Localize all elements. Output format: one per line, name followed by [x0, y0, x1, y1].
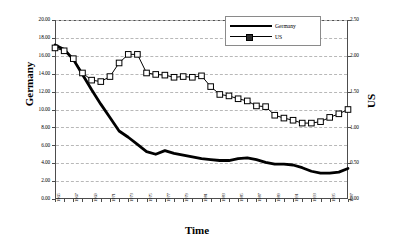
- x-axis-tick-mark: [229, 199, 230, 202]
- y-axis-tick-mark-left: [52, 181, 55, 182]
- x-axis-tick-mark: [321, 199, 322, 202]
- chart-container: Germany US Time Germany US 0.002.004.006…: [0, 0, 394, 246]
- y-axis-tick-label-right: 0.50: [350, 160, 392, 165]
- y-axis-tick-mark-left: [52, 145, 55, 146]
- x-axis-tick-mark: [192, 199, 193, 202]
- y-axis-tick-label-left: 4.00: [8, 160, 50, 165]
- y-axis-tick-label-left: 18.00: [8, 35, 50, 40]
- x-axis-tick-mark: [64, 199, 65, 202]
- x-axis-tick-mark: [284, 199, 285, 202]
- series-us: [52, 45, 351, 126]
- y-axis-tick-label-left: 6.00: [8, 143, 50, 148]
- x-axis-tick-mark: [119, 199, 120, 202]
- y-axis-tick-mark-right: [348, 56, 351, 57]
- data-point-marker: [80, 70, 86, 76]
- data-point-marker: [135, 52, 141, 58]
- x-axis-tick-label: 1989: [277, 193, 282, 202]
- x-axis-tick-label: 1967: [75, 193, 80, 202]
- x-axis-tick-mark: [101, 199, 102, 202]
- data-point-marker: [171, 74, 177, 80]
- y-axis-tick-mark-right: [348, 20, 351, 21]
- x-axis-tick-label: 1991: [295, 193, 300, 202]
- y-axis-tick-label-left: 8.00: [8, 125, 50, 130]
- x-axis-tick-mark: [266, 199, 267, 202]
- x-axis-tick-mark: [137, 199, 138, 202]
- data-point-marker: [144, 70, 150, 76]
- y-axis-tick-label-left: 12.00: [8, 89, 50, 94]
- x-axis-tick-label: 1995: [332, 193, 337, 202]
- data-point-marker: [107, 74, 113, 80]
- data-point-marker: [98, 79, 104, 85]
- x-axis-tick-label: 1975: [149, 193, 154, 202]
- data-point-marker: [235, 96, 241, 102]
- y-axis-tick-mark-right: [348, 163, 351, 164]
- data-point-marker: [272, 112, 278, 118]
- y-axis-tick-mark-left: [52, 92, 55, 93]
- y-axis-tick-label-right: 2.50: [350, 17, 392, 22]
- y-axis-tick-mark-left: [52, 127, 55, 128]
- y-axis-tick-label-left: 16.00: [8, 53, 50, 58]
- series-layer: [0, 0, 394, 246]
- y-axis-tick-mark-left: [52, 110, 55, 111]
- x-axis-tick-label: 1965: [57, 193, 62, 202]
- x-axis-tick-label: 1981: [204, 193, 209, 202]
- x-axis-tick-mark: [82, 199, 83, 202]
- y-axis-tick-mark-left: [52, 74, 55, 75]
- y-axis-tick-label-left: 10.00: [8, 107, 50, 112]
- data-point-marker: [61, 48, 67, 54]
- x-axis-tick-label: 1993: [313, 193, 318, 202]
- data-point-marker: [125, 52, 131, 58]
- data-point-marker: [217, 92, 223, 98]
- data-point-marker: [89, 77, 95, 83]
- x-axis-tick-label: 1977: [167, 193, 172, 202]
- x-axis-tick-mark: [174, 199, 175, 202]
- data-point-marker: [226, 93, 232, 99]
- data-point-marker: [299, 120, 305, 126]
- data-point-marker: [180, 74, 186, 80]
- data-point-marker: [345, 107, 351, 113]
- x-axis-tick-label: 1973: [130, 193, 135, 202]
- y-axis-tick-label-left: 2.00: [8, 178, 50, 183]
- x-axis-tick-mark: [247, 199, 248, 202]
- x-axis-tick-label: 1987: [258, 193, 263, 202]
- data-point-marker: [327, 115, 333, 121]
- data-point-marker: [116, 60, 122, 66]
- y-axis-tick-label-left: 20.00: [8, 17, 50, 22]
- x-axis-tick-mark: [339, 199, 340, 202]
- data-point-marker: [162, 72, 168, 78]
- data-point-marker: [263, 104, 269, 110]
- y-axis-tick-label-left: 14.00: [8, 71, 50, 76]
- x-axis-tick-mark: [156, 199, 157, 202]
- x-axis-tick-mark: [211, 199, 212, 202]
- data-point-marker: [244, 98, 250, 104]
- data-point-marker: [290, 117, 296, 123]
- data-point-marker: [153, 72, 159, 78]
- y-axis-tick-label-right: 0.00: [350, 196, 392, 201]
- y-axis-tick-label-left: 0.00: [8, 196, 50, 201]
- data-point-marker: [52, 45, 58, 51]
- data-point-marker: [71, 56, 77, 62]
- data-point-marker: [309, 120, 315, 126]
- data-point-marker: [208, 84, 214, 90]
- y-axis-tick-mark-right: [348, 127, 351, 128]
- y-axis-tick-mark-left: [52, 38, 55, 39]
- data-point-marker: [190, 74, 196, 80]
- data-point-marker: [281, 115, 287, 121]
- data-point-marker: [336, 111, 342, 117]
- x-axis-tick-label: 1971: [112, 193, 117, 202]
- y-axis-tick-mark-left: [52, 56, 55, 57]
- series-germany: [55, 45, 348, 173]
- y-axis-tick-mark-left: [52, 20, 55, 21]
- y-axis-tick-label-right: 2.00: [350, 53, 392, 58]
- data-point-marker: [318, 119, 324, 125]
- x-axis-tick-label: 1997: [350, 193, 355, 202]
- y-axis-tick-label-right: 1.50: [350, 89, 392, 94]
- x-axis-tick-label: 1979: [185, 193, 190, 202]
- y-axis-tick-mark-left: [52, 163, 55, 164]
- y-axis-tick-mark-right: [348, 92, 351, 93]
- data-point-marker: [199, 73, 205, 79]
- x-axis-tick-label: 1969: [94, 193, 99, 202]
- x-axis-tick-label: 1983: [222, 193, 227, 202]
- x-axis-tick-label: 1985: [240, 193, 245, 202]
- y-axis-tick-label-right: 1.00: [350, 125, 392, 130]
